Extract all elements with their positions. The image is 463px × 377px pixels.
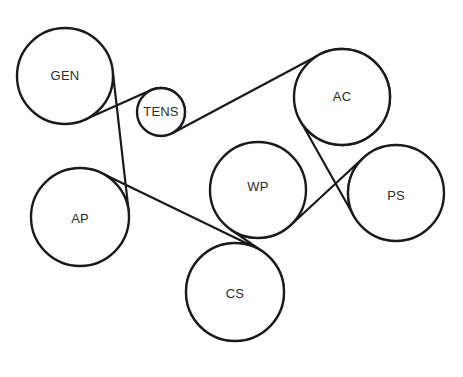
pulley-label-ac: AC — [333, 89, 351, 104]
pulley-label-tens: TENS — [143, 104, 179, 119]
pulley-label-gen: GEN — [51, 68, 80, 83]
belt-diagram-canvas: Serpentine Belt Routing Diagram GENTENSA… — [0, 0, 463, 377]
belt-routing-diagram: Serpentine Belt Routing Diagram GENTENSA… — [0, 0, 463, 377]
pulley-label-ap: AP — [71, 211, 89, 226]
pulley-label-cs: CS — [226, 286, 245, 301]
pulley-label-ps: PS — [387, 188, 405, 203]
pulley-label-wp: WP — [247, 179, 268, 194]
